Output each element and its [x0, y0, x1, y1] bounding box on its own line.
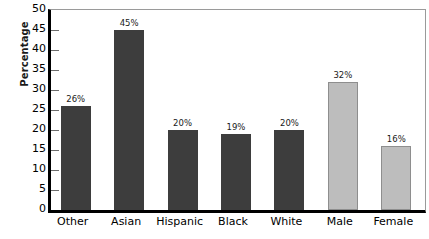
bar-hispanic	[168, 130, 198, 210]
bar-value-label: 45%	[104, 18, 154, 28]
bar-value-label: 20%	[264, 118, 314, 128]
y-tick-mark	[51, 90, 59, 91]
x-tick-label: Asian	[99, 215, 152, 229]
y-tick-label: 45	[18, 23, 46, 34]
y-tick-label: 50	[18, 3, 46, 14]
y-tick-label: 30	[18, 83, 46, 94]
x-tick-label: Other	[46, 215, 99, 229]
bar-value-label: 16%	[371, 134, 421, 144]
y-tick-mark	[51, 110, 59, 111]
plot-area: 26%45%20%19%20%32%16%	[51, 10, 425, 210]
y-tick-label: 0	[18, 203, 46, 214]
bar-value-label: 20%	[158, 118, 208, 128]
y-axis-tick-labels: 50454035302520151050	[18, 0, 46, 239]
x-tick-label: Male	[313, 215, 366, 229]
bar-black	[221, 134, 251, 210]
bar-value-label: 26%	[51, 94, 101, 104]
y-tick-mark	[51, 130, 59, 131]
x-tick-label: Black	[206, 215, 259, 229]
x-tick-label: White	[260, 215, 313, 229]
y-tick-label: 35	[18, 63, 46, 74]
y-tick-label: 15	[18, 143, 46, 154]
bar-white	[274, 130, 304, 210]
y-tick-label: 20	[18, 123, 46, 134]
y-tick-label: 40	[18, 43, 46, 54]
bar-other	[61, 106, 91, 210]
y-tick-mark	[51, 170, 59, 171]
bar-value-label: 32%	[318, 70, 368, 80]
y-tick-label: 25	[18, 103, 46, 114]
y-tick-label: 10	[18, 163, 46, 174]
y-tick-mark	[51, 70, 59, 71]
y-tick-mark	[51, 50, 59, 51]
x-tick-label: Hispanic	[153, 215, 206, 229]
bar-asian	[114, 30, 144, 210]
y-tick-mark	[51, 190, 59, 191]
x-axis-tick-labels: OtherAsianHispanicBlackWhiteMaleFemale	[48, 215, 422, 235]
y-tick-label: 5	[18, 183, 46, 194]
bar-chart: Percentage 50454035302520151050 26%45%20…	[0, 0, 429, 239]
bar-male	[328, 82, 358, 210]
bar-female	[381, 146, 411, 210]
y-tick-mark	[51, 150, 59, 151]
bar-value-label: 19%	[211, 122, 261, 132]
plot-frame: 26%45%20%19%20%32%16%	[48, 9, 426, 213]
y-tick-mark	[51, 30, 59, 31]
x-tick-label: Female	[367, 215, 420, 229]
